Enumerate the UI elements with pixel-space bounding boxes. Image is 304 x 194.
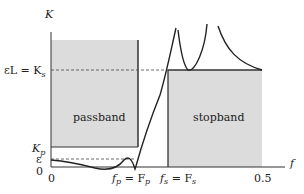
x-half-label: 0.5	[254, 172, 272, 185]
passband-label: passband	[73, 111, 126, 124]
passband-region	[51, 40, 138, 147]
filter-spec-diagram: K f εL = Ks Kp ε 0 0 fp = Fp fs = Fs 0.5…	[0, 0, 304, 194]
fp-label: fp = Fp	[111, 172, 150, 186]
response-curve-lobe2	[218, 26, 262, 70]
ks-label: εL = Ks	[4, 64, 46, 79]
y-axis-label: K	[44, 8, 54, 21]
response-curve-lobe1	[178, 24, 207, 70]
fs-label: fs = Fs	[159, 172, 196, 186]
x-zero-label: 0	[48, 172, 55, 185]
stopband-label: stopband	[193, 111, 244, 124]
y-zero-label: 0	[36, 165, 43, 178]
x-axis-label: f	[289, 157, 296, 170]
